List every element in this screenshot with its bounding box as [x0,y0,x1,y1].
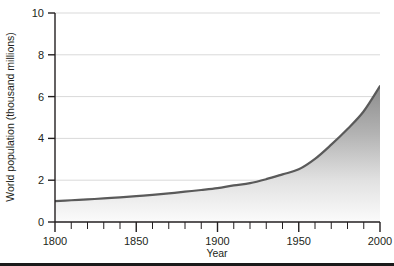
x-tick-label: 1800 [43,235,67,247]
x-tick-label: 2000 [368,235,392,247]
y-tick-label: 2 [38,174,44,186]
y-tick-label: 6 [38,91,44,103]
x-tick-label: 1900 [205,235,229,247]
population-area-series [55,86,380,222]
x-axis-tick-labels: 18001850190019502000 [43,235,392,247]
world-population-area-chart: 0246810 18001850190019502000 Year World … [0,0,394,266]
y-axis-ticks [48,13,55,222]
scan-artifact [3,2,27,24]
population-chart-figure: 0246810 18001850190019502000 Year World … [0,0,394,266]
y-axis-tick-labels: 0246810 [32,7,44,228]
y-tick-label: 0 [38,216,44,228]
y-axis-title: World population (thousand millions) [4,32,16,202]
y-tick-label: 10 [32,7,44,19]
y-tick-label: 4 [38,132,44,144]
x-tick-label: 1850 [124,235,148,247]
population-area-fill [55,86,380,222]
x-tick-label: 1950 [287,235,311,247]
x-axis-title: Year [206,247,228,259]
y-tick-label: 8 [38,49,44,61]
